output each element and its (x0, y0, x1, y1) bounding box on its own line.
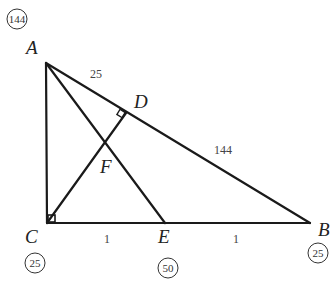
vertex-label-f: F (99, 156, 112, 177)
segment-label-eb: 1 (233, 232, 239, 246)
vertex-label-c: C (25, 226, 38, 247)
segment-ab (46, 63, 310, 223)
svg-text:144: 144 (9, 13, 26, 25)
segment-label-ce: 1 (104, 232, 110, 246)
circled-weight-a: 144 (7, 9, 27, 29)
svg-text:25: 25 (30, 257, 42, 269)
triangle-diagram: A D F C E B 25 144 1 1 144 25 50 25 (0, 0, 335, 288)
segment-cd (47, 113, 126, 223)
vertex-label-e: E (157, 226, 170, 247)
segment-label-db: 144 (214, 143, 232, 157)
vertex-label-a: A (24, 37, 38, 58)
circled-weight-c: 25 (25, 253, 45, 273)
vertex-label-d: D (133, 91, 148, 112)
segment-label-ad: 25 (90, 67, 102, 81)
circled-weight-e: 50 (158, 258, 178, 278)
svg-text:50: 50 (163, 262, 175, 274)
circled-weight-b: 25 (308, 243, 328, 263)
vertex-label-b: B (318, 219, 330, 240)
svg-text:25: 25 (313, 247, 325, 259)
segment-ac (46, 63, 47, 223)
